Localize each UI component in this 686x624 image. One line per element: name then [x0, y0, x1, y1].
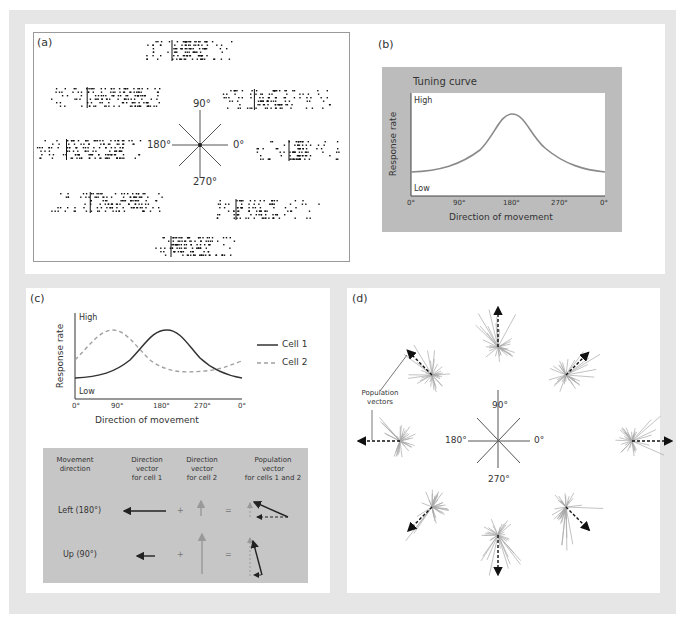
compass-d-0: 0° — [534, 435, 544, 445]
compass-d-90: 90° — [492, 400, 508, 410]
compass-d-270: 270° — [488, 474, 510, 484]
annotation-leader-1 — [380, 355, 407, 391]
population-vectors-annotation: Population vectors — [350, 389, 410, 407]
population-vector-arrow — [408, 507, 432, 531]
compass-d-180: 180° — [445, 435, 467, 445]
population-vector-diagram — [0, 0, 686, 624]
